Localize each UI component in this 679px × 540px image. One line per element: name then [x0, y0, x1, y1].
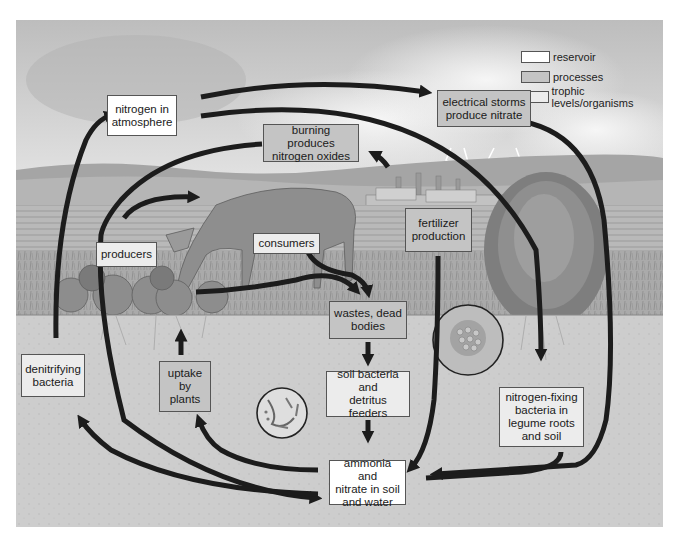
- node-nitrogen-in-atmosphere: nitrogen in atmosphere: [107, 95, 177, 136]
- root-nodules-magnified-icon: [433, 305, 503, 375]
- legend-label: processes: [553, 71, 603, 83]
- legend-label: reservoir: [553, 51, 596, 63]
- node-consumers: consumers: [253, 233, 320, 254]
- legend-swatch-processes: [521, 71, 550, 83]
- node-burning-produces-nitrogen-oxides: burning produces nitrogen oxides: [263, 124, 359, 162]
- node-ammonia-nitrate-soil-water: ammonia and nitrate in soil and water: [329, 460, 406, 505]
- node-electrical-storms: electrical storms produce nitrate: [437, 90, 531, 127]
- legend: reservoir processes trophic levels/organ…: [521, 47, 663, 107]
- nitrogen-cycle-illustration: reservoir processes trophic levels/organ…: [16, 20, 663, 527]
- node-fertilizer-production: fertilizer production: [405, 208, 472, 252]
- legend-item-processes: processes: [521, 67, 663, 87]
- soil-bacteria-magnified-icon: [257, 388, 307, 438]
- legume-plant-icon: [484, 172, 608, 328]
- node-soil-bacteria-detritus-feeders: soil bacteria and detritus feeders: [326, 371, 410, 417]
- node-uptake-by-plants: uptake by plants: [159, 361, 211, 412]
- node-producers: producers: [96, 242, 157, 267]
- node-denitrifying-bacteria: denitrifying bacteria: [21, 354, 85, 397]
- legend-item-reservoir: reservoir: [521, 47, 663, 67]
- node-wastes-dead-bodies: wastes, dead bodies: [329, 301, 407, 339]
- legend-item-trophic: trophic levels/organisms: [521, 87, 663, 107]
- node-nitrogen-fixing-bacteria: nitrogen-fixing bacteria in legume roots…: [499, 387, 584, 447]
- legend-label: trophic levels/organisms: [552, 85, 663, 109]
- legend-swatch-reservoir: [521, 51, 550, 63]
